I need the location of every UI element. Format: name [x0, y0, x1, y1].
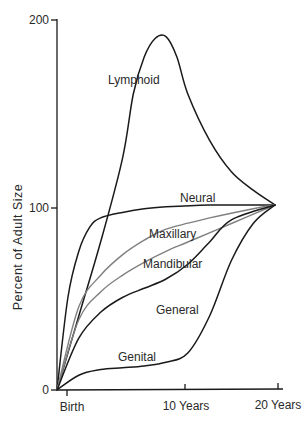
label-maxillary: Maxillary: [149, 227, 196, 241]
x-tick-10-years: 10 Years: [163, 399, 210, 413]
label-general: General: [156, 303, 199, 317]
x-axis: Birth 10 Years 20 Years: [57, 383, 301, 414]
label-lymphoid: Lymphoid: [108, 73, 160, 87]
curve-labels: Lymphoid Neural Maxillary Mandibular Gen…: [108, 73, 215, 364]
y-tick-0: 0: [42, 383, 49, 397]
y-tick-200: 200: [29, 13, 49, 27]
y-axis-label: Percent of Adult Size: [11, 184, 25, 311]
growth-curves-chart: 200 100 0 Percent of Adult Size Birth 10…: [0, 0, 304, 422]
y-axis: 200 100 0 Percent of Adult Size: [11, 13, 57, 397]
curve-group: [57, 35, 275, 390]
y-tick-100: 100: [29, 201, 49, 215]
clipped-caption: [0, 416, 304, 422]
x-tick-20-years: 20 Years: [255, 398, 302, 412]
curve-lymphoid: [57, 35, 275, 390]
label-mandibular: Mandibular: [143, 257, 202, 271]
label-neural: Neural: [180, 191, 215, 205]
x-tick-birth: Birth: [60, 400, 85, 414]
label-genital: Genital: [118, 350, 156, 364]
